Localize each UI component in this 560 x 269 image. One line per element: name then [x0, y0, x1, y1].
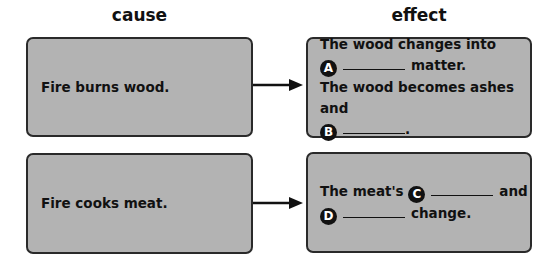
marker-c-icon: C	[408, 186, 425, 203]
blank-a[interactable]	[343, 57, 405, 70]
effect-text: The meat's	[320, 183, 404, 199]
effect-line: Amatter.	[320, 55, 530, 77]
cause-heading: cause	[26, 5, 253, 25]
effect-text: and	[499, 183, 527, 199]
effect-line: The wood changes into	[320, 34, 530, 55]
marker-d-icon: D	[320, 208, 337, 225]
cause-text-2: Fire cooks meat.	[41, 193, 251, 214]
effect-line: B.	[320, 119, 530, 141]
blank-d[interactable]	[343, 205, 405, 218]
marker-a-icon: A	[320, 60, 337, 77]
effect-box-2: The meat's Cand Dchange.	[306, 152, 532, 253]
effect-box-1: The wood changes into Amatter. The wood …	[306, 37, 532, 138]
blank-c[interactable]	[431, 183, 493, 196]
effect-line: The wood becomes ashes and	[320, 77, 530, 119]
cause-box-1: Fire burns wood.	[26, 37, 253, 137]
effect-line: Dchange.	[320, 203, 530, 225]
effect-heading: effect	[306, 5, 532, 25]
effect-text: change.	[411, 205, 471, 221]
blank-b[interactable]	[343, 121, 405, 134]
effect-text: matter.	[411, 57, 466, 73]
effect-text: .	[405, 121, 410, 137]
effect-line: The meat's Cand	[320, 181, 530, 203]
cause-text-1: Fire burns wood.	[41, 77, 251, 98]
cause-box-2: Fire cooks meat.	[26, 153, 253, 254]
arrow-right-icon	[253, 193, 306, 213]
marker-b-icon: B	[320, 124, 337, 141]
arrow-right-icon	[253, 75, 306, 95]
